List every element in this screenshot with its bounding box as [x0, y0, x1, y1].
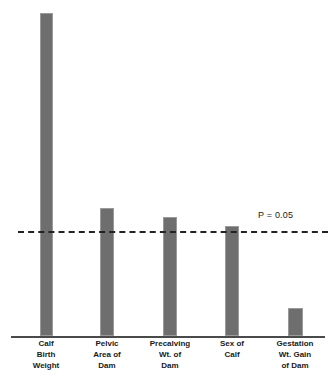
category-label: Sex ofCalf — [196, 338, 268, 360]
category-label-line: Calf — [196, 349, 268, 360]
category-label-line: of Dam — [259, 360, 331, 371]
bar — [163, 217, 177, 336]
category-label-line: Dam — [134, 360, 206, 371]
category-label-line: Pelvic — [71, 338, 143, 349]
significance-threshold-label: P = 0.05 — [258, 210, 293, 220]
category-label-line: Wt. Gain — [259, 349, 331, 360]
x-axis-category-labels: CalfBirthWeightPelvicArea ofDamPrecalvin… — [0, 338, 335, 382]
bar — [225, 226, 239, 336]
category-label-line: Gestation — [259, 338, 331, 349]
category-label-line: Sex of — [196, 338, 268, 349]
category-label-line: Area of — [71, 349, 143, 360]
plot-area — [0, 0, 335, 337]
category-label-line: Dam — [71, 360, 143, 371]
category-label: PelvicArea ofDam — [71, 338, 143, 371]
category-label: GestationWt. Gainof Dam — [259, 338, 331, 371]
bar-chart-figure: P = 0.05 CalfBirthWeightPelvicArea ofDam… — [0, 0, 335, 382]
bar — [288, 308, 303, 336]
bar — [100, 208, 114, 336]
bar — [40, 13, 53, 336]
significance-threshold-line — [18, 231, 328, 233]
